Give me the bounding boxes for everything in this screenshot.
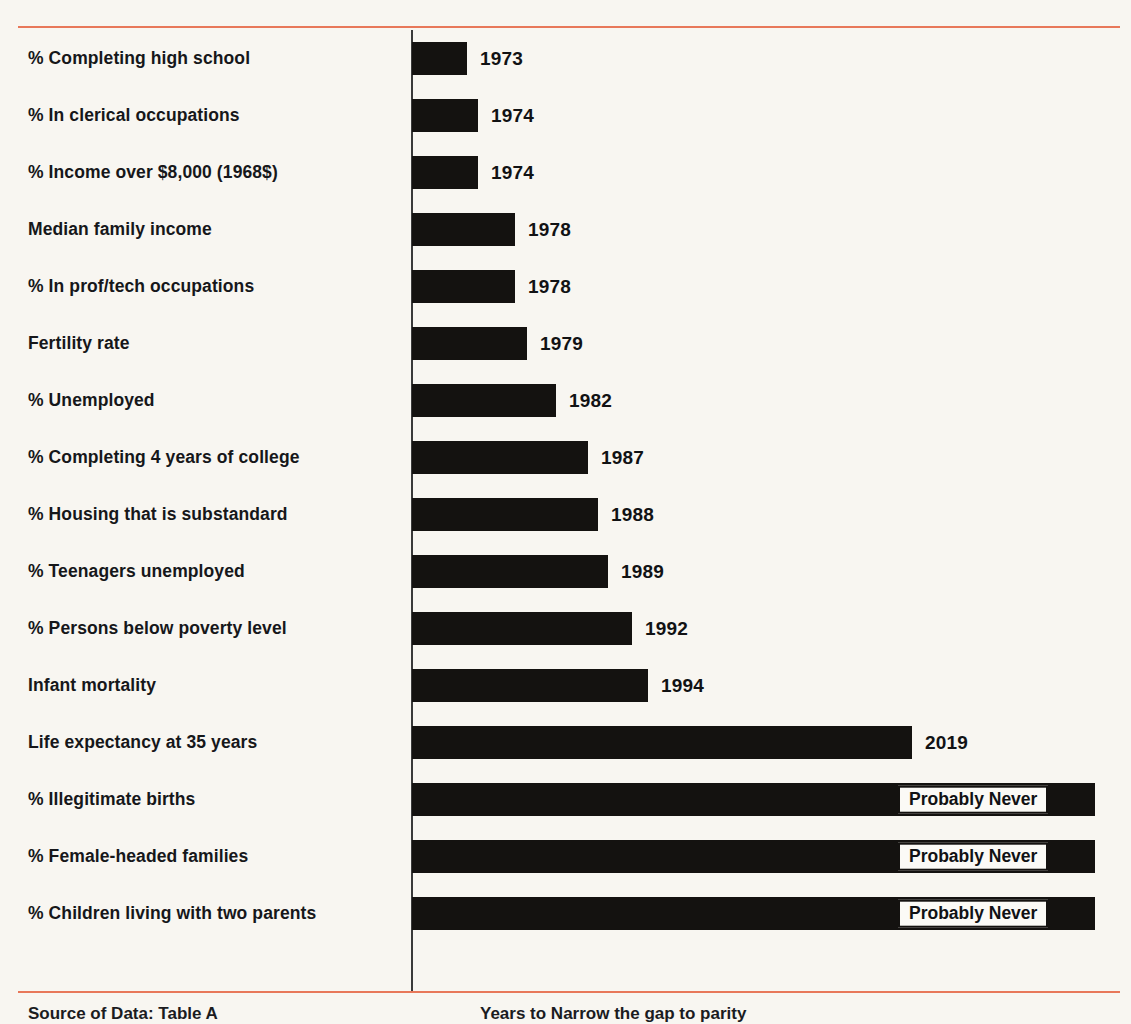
bar-category-label: % Teenagers unemployed <box>28 543 245 600</box>
bar-track <box>412 315 527 372</box>
bar-value-label: 1987 <box>601 429 644 486</box>
bar <box>412 669 648 702</box>
bar-category-label: % Persons below poverty level <box>28 600 287 657</box>
bar-value-label: 1979 <box>540 315 583 372</box>
bar-rows: % Completing high school1973% In clerica… <box>0 30 1131 975</box>
bar-value-label: 1994 <box>661 657 704 714</box>
bar <box>412 441 588 474</box>
bar-value-label: 1982 <box>569 372 612 429</box>
bar-track <box>412 543 608 600</box>
bar-category-label: Infant mortality <box>28 657 156 714</box>
footer-note-text: Years to Narrow the gap to parity <box>480 1004 746 1024</box>
bar-track <box>412 714 912 771</box>
bar-value-label: 1974 <box>491 87 534 144</box>
bar <box>412 213 515 246</box>
bar-value-callout: Probably Never <box>898 899 1048 928</box>
bar-category-label: % In clerical occupations <box>28 87 240 144</box>
bar-category-label: % Unemployed <box>28 372 155 429</box>
bar <box>412 42 467 75</box>
top-rule <box>18 26 1120 28</box>
bar-row: Infant mortality1994 <box>0 657 1131 714</box>
bar-category-label: % Completing high school <box>28 30 250 87</box>
bar-row: % Illegitimate birthsProbably Never <box>0 771 1131 828</box>
bar-category-label: % Female-headed families <box>28 828 248 885</box>
bar-row: Fertility rate1979 <box>0 315 1131 372</box>
bar-row: Life expectancy at 35 years2019 <box>0 714 1131 771</box>
bar-track <box>412 258 515 315</box>
bar <box>412 384 556 417</box>
bar-track <box>412 30 467 87</box>
bar-row: % Completing 4 years of college1987 <box>0 429 1131 486</box>
bar-track <box>412 600 632 657</box>
bar-track <box>412 372 556 429</box>
bar-row: % In clerical occupations1974 <box>0 87 1131 144</box>
bar-category-label: % Completing 4 years of college <box>28 429 300 486</box>
bar <box>412 99 478 132</box>
bar-value-label: 1989 <box>621 543 664 600</box>
bottom-rule <box>18 991 1120 993</box>
footer-source-text: Source of Data: Table A <box>28 1004 218 1024</box>
bar-track <box>412 201 515 258</box>
bar-value-label: 1978 <box>528 201 571 258</box>
bar <box>412 498 598 531</box>
bar-value-label: 1973 <box>480 30 523 87</box>
bar-value-callout: Probably Never <box>898 785 1048 814</box>
bar-value-label: 1988 <box>611 486 654 543</box>
bar-track <box>412 657 648 714</box>
bar <box>412 726 912 759</box>
bar-category-label: % Housing that is substandard <box>28 486 288 543</box>
chart-figure: % Completing high school1973% In clerica… <box>0 0 1131 1024</box>
bar-category-label: Median family income <box>28 201 212 258</box>
bar-row: % Unemployed1982 <box>0 372 1131 429</box>
bar-value-label: 2019 <box>925 714 968 771</box>
bar-value-label: 1974 <box>491 144 534 201</box>
chart-footer: Source of Data: Table A Years to Narrow … <box>0 1004 1131 1024</box>
bar-row: Median family income1978 <box>0 201 1131 258</box>
bar-value-callout: Probably Never <box>898 842 1048 871</box>
bar <box>412 612 632 645</box>
bar-row: % Income over $8,000 (1968$)1974 <box>0 144 1131 201</box>
bar-row: % Persons below poverty level1992 <box>0 600 1131 657</box>
bar-value-label: 1978 <box>528 258 571 315</box>
bar-row: % Children living with two parentsProbab… <box>0 885 1131 942</box>
bar-track <box>412 486 598 543</box>
bar-value-label: 1992 <box>645 600 688 657</box>
bar <box>412 156 478 189</box>
bar <box>412 555 608 588</box>
bar-track <box>412 144 478 201</box>
bar-track <box>412 87 478 144</box>
bar-category-label: Fertility rate <box>28 315 130 372</box>
bar-row: % Completing high school1973 <box>0 30 1131 87</box>
bar-category-label: % In prof/tech occupations <box>28 258 254 315</box>
bar-track <box>412 429 588 486</box>
bar-category-label: % Illegitimate births <box>28 771 195 828</box>
bar-row: % Teenagers unemployed1989 <box>0 543 1131 600</box>
bar-category-label: % Children living with two parents <box>28 885 316 942</box>
bar-row: % Female-headed familiesProbably Never <box>0 828 1131 885</box>
bar-category-label: Life expectancy at 35 years <box>28 714 257 771</box>
bar-category-label: % Income over $8,000 (1968$) <box>28 144 278 201</box>
bar-row: % In prof/tech occupations1978 <box>0 258 1131 315</box>
bar-row: % Housing that is substandard1988 <box>0 486 1131 543</box>
bar <box>412 270 515 303</box>
bar <box>412 327 527 360</box>
